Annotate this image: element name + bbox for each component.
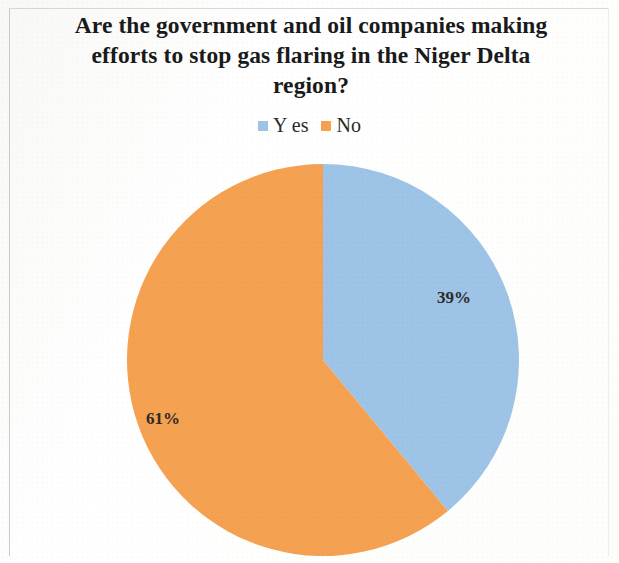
pie-chart [0, 0, 619, 563]
pie-label-yes: 39% [437, 288, 471, 308]
pie-chart-area [0, 0, 619, 563]
chart-figure: Are the government and oil companies mak… [0, 0, 619, 563]
pie-slices [127, 164, 519, 556]
pie-label-no: 61% [146, 409, 180, 429]
